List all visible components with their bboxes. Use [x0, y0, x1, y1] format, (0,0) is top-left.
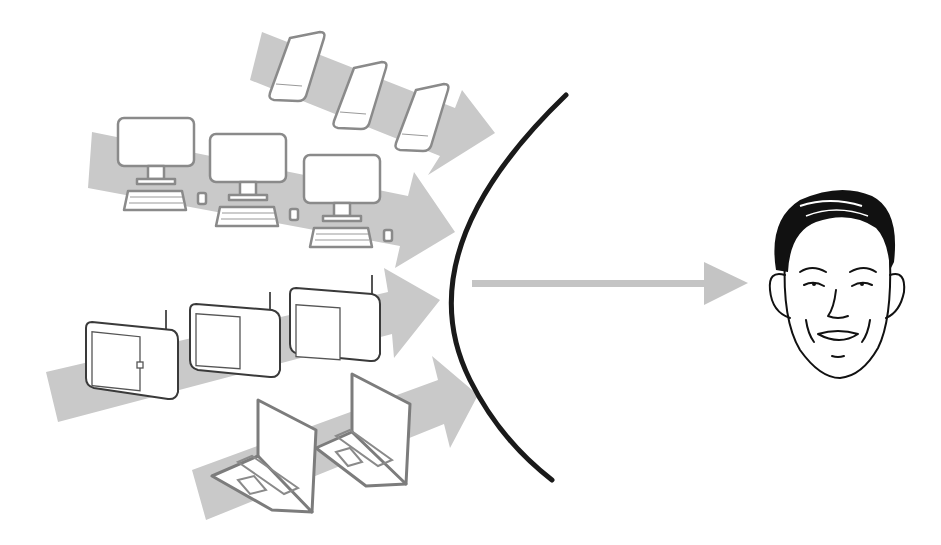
person-face-icon [770, 190, 904, 378]
television-icon [290, 275, 380, 361]
stream-laptops [192, 356, 478, 520]
output-arrow [472, 262, 748, 305]
television-icon [86, 310, 178, 399]
curved-barrier [451, 95, 566, 480]
television-icon [190, 292, 280, 377]
diagram-canvas [0, 0, 941, 545]
